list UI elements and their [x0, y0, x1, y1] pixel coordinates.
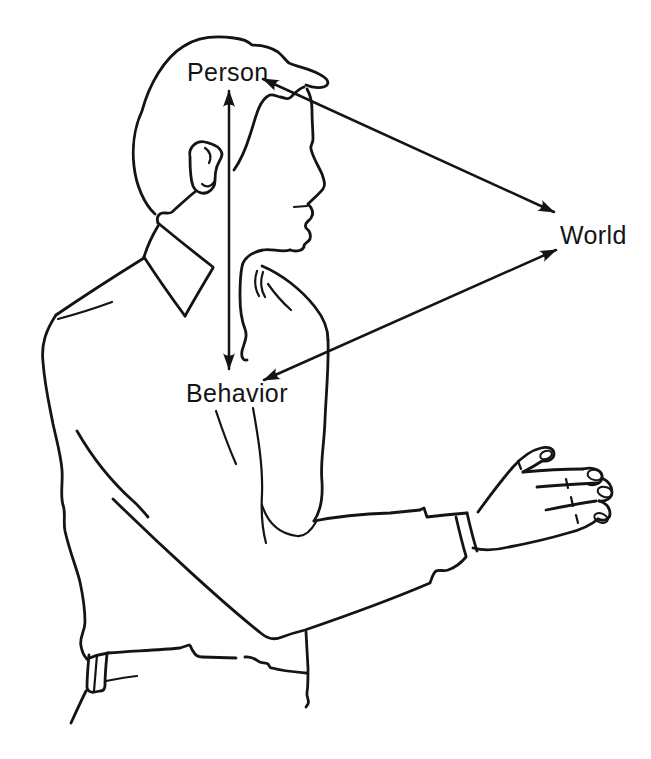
belt-loop-inner	[94, 655, 97, 691]
arrow-behavior-world	[264, 250, 556, 380]
mouth-chin	[290, 204, 313, 251]
label-world: World	[560, 221, 627, 249]
hip-curve	[106, 676, 137, 681]
leg-line	[71, 691, 86, 723]
man-line-drawing	[43, 37, 614, 723]
label-behavior: Behavior	[186, 379, 288, 407]
trouser-crease	[306, 632, 309, 707]
right-shoulder-curve	[262, 266, 328, 340]
waist-and-trousers	[71, 632, 309, 723]
nostril-line	[294, 206, 307, 207]
collar-right-flap	[268, 284, 291, 310]
cuff-left-line	[456, 517, 466, 556]
shoulder-seam-lower	[58, 302, 112, 319]
diagram-arrows	[229, 79, 556, 380]
elbow-crease	[262, 505, 316, 536]
collar-back-edge	[144, 226, 158, 257]
ring-fingertip	[598, 501, 610, 520]
diagram-labels: Person World Behavior	[186, 58, 627, 407]
middle-ring-separation	[546, 501, 596, 510]
collar	[56, 223, 328, 340]
right-arm	[113, 499, 477, 639]
figure-page: Person World Behavior	[0, 0, 651, 759]
index-finger-top	[523, 469, 583, 472]
torso	[43, 315, 329, 659]
armhole-seam	[77, 431, 148, 517]
sweater-hem-right	[245, 657, 306, 673]
hand-back-and-thumb	[478, 447, 554, 512]
collar-left-flap-outer	[144, 257, 185, 316]
neck-tendon-1	[255, 271, 259, 296]
knuckle-tick-2	[566, 479, 568, 488]
cuff-right-line	[467, 513, 477, 551]
chest-fold-2	[216, 411, 236, 464]
arrow-person-world	[263, 79, 554, 212]
knuckle-tick-4	[576, 515, 578, 523]
figure-illustration: Person World Behavior	[0, 0, 651, 759]
forearm-top-edge	[314, 508, 467, 521]
sweater-hem	[108, 645, 236, 658]
chest-fold-1	[253, 408, 266, 543]
collar-left-flap-inner	[185, 268, 213, 316]
hand-bottom-edge	[473, 519, 598, 550]
neck-tendon-2	[261, 272, 265, 297]
torso-front-line	[314, 340, 328, 521]
ear-inner-fold	[205, 148, 210, 163]
knuckle-tick-1	[518, 461, 521, 469]
ear-lobe-line	[202, 182, 214, 186]
hair-nape-edge	[157, 191, 196, 223]
hand	[473, 447, 614, 549]
label-person: Person	[187, 58, 269, 86]
sleeve-underside	[113, 499, 466, 639]
hairline-front	[234, 87, 304, 170]
collar-top-edge	[158, 223, 213, 267]
torso-back-line	[43, 315, 87, 659]
